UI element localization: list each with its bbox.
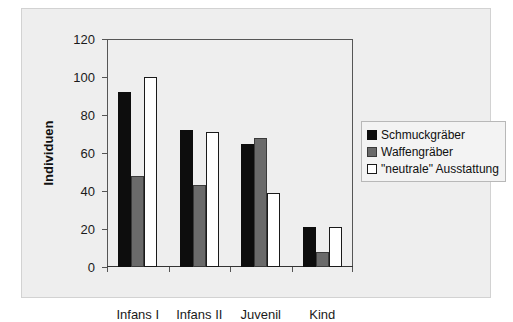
x-axis-tick <box>292 267 293 272</box>
white-square-swatch <box>367 164 377 174</box>
bar <box>254 138 267 267</box>
x-axis-tick <box>107 267 108 272</box>
plot-frame-top <box>107 39 353 40</box>
y-axis-tick-label: 100 <box>73 71 95 84</box>
bar <box>206 132 219 267</box>
legend-item[interactable]: Schmuckgräber <box>367 126 499 143</box>
bar <box>329 227 342 267</box>
bar <box>316 252 329 267</box>
legend-item[interactable]: Waffengräber <box>367 143 499 160</box>
plot-frame-right <box>352 39 353 267</box>
chart-panel: Individuen 020406080100120 Infans IInfan… <box>21 8 491 298</box>
x-axis-tick <box>169 267 170 272</box>
chart-legend: SchmuckgräberWaffengräber"neutrale" Auss… <box>361 121 506 182</box>
legend-item[interactable]: "neutrale" Ausstattung <box>367 160 499 177</box>
x-axis-category-label: Kind <box>309 307 335 322</box>
bar <box>144 77 157 267</box>
y-axis-tick: 20 <box>102 229 107 230</box>
bar <box>303 227 316 267</box>
bar <box>241 144 254 268</box>
y-axis-tick-label: 40 <box>81 185 95 198</box>
bar <box>267 193 280 267</box>
y-axis-title: Individuen <box>41 121 56 186</box>
y-axis-tick: 40 <box>102 191 107 192</box>
y-axis-tick: 80 <box>102 115 107 116</box>
legend-item-label: Waffengräber <box>381 146 453 158</box>
y-axis-line <box>107 39 108 267</box>
black-square-swatch <box>367 130 377 140</box>
y-axis-tick-label: 80 <box>81 109 95 122</box>
y-axis-tick-label: 120 <box>73 33 95 46</box>
legend-item-label: "neutrale" Ausstattung <box>381 163 499 175</box>
y-axis-tick-label: 60 <box>81 147 95 160</box>
y-axis-tick-label: 20 <box>81 223 95 236</box>
bar <box>118 92 131 267</box>
x-axis-tick <box>230 267 231 272</box>
y-axis-tick: 120 <box>102 39 107 40</box>
x-axis-tick <box>352 267 353 272</box>
gray-square-swatch <box>367 147 377 157</box>
y-axis-tick-label: 0 <box>88 261 95 274</box>
y-axis-tick: 100 <box>102 77 107 78</box>
x-axis-category-label: Infans II <box>176 307 222 322</box>
legend-item-label: Schmuckgräber <box>381 129 465 141</box>
bar <box>180 130 193 267</box>
bar <box>131 176 144 267</box>
y-axis-tick: 60 <box>102 153 107 154</box>
bar <box>193 185 206 267</box>
x-axis-category-label: Juvenil <box>241 307 281 322</box>
x-axis-category-label: Infans I <box>116 307 159 322</box>
plot-area: 020406080100120 Infans IInfans IIJuvenil… <box>107 39 353 267</box>
